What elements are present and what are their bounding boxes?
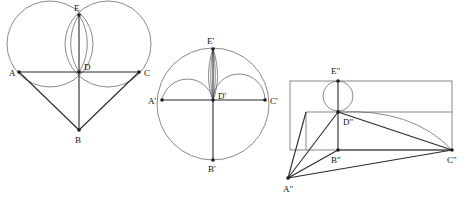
label-A-prime: A' [148, 96, 156, 106]
circle-vertex-C [263, 98, 267, 102]
label-B-dprime: B" [331, 155, 341, 165]
label-D-prime: D' [218, 91, 226, 101]
circle-vertex-E [211, 47, 215, 51]
label-D-dprime: D" [343, 117, 353, 127]
label-E-prime: E' [207, 36, 214, 46]
label-E-dprime: E" [331, 66, 340, 76]
heart-vertex-B [77, 128, 81, 132]
heart-vertex-C [137, 70, 141, 74]
rect-segment-AD [288, 112, 338, 178]
rect-vertex-D [336, 110, 340, 114]
label-C-dprime: C" [447, 155, 457, 165]
rect-vertex-C [450, 148, 454, 152]
diagram-canvas: A C D E B A' C' D' E' [0, 0, 470, 205]
heart-vertex-D [77, 70, 81, 74]
label-D: D [84, 62, 91, 72]
rect-vertex-E [336, 79, 340, 83]
label-E: E [74, 3, 80, 13]
circle-vertex-A [160, 98, 164, 102]
label-A: A [9, 68, 16, 78]
panel-heart-figure: A C D E B [7, 1, 151, 145]
heart-segment-CB [79, 72, 139, 130]
circle-vertex-D [211, 98, 215, 102]
heart-vertex-A [17, 70, 21, 74]
heart-vesica-lens-left [71, 15, 79, 72]
rect-segment-A-inner [288, 112, 306, 178]
rect-outer [290, 81, 452, 150]
panel-rectangle-figure: A" B" C" D" E" [283, 66, 457, 194]
rect-segment-DC [338, 112, 452, 150]
circle-left-arc [162, 79, 213, 100]
rect-vertex-A [286, 176, 290, 180]
circle-vertex-B [211, 158, 215, 162]
rect-vertex-B [336, 148, 340, 152]
label-B: B [75, 135, 81, 145]
heart-vertex-E [77, 13, 81, 17]
label-A-dprime: A" [283, 184, 293, 194]
label-C-prime: C' [270, 96, 278, 106]
heart-segment-AB [19, 72, 79, 130]
label-B-prime: B' [208, 164, 216, 174]
panel-circle-figure: A' C' D' E' B' [148, 36, 278, 174]
label-C: C [144, 68, 150, 78]
geometry-diagram: A C D E B A' C' D' E' [0, 0, 470, 205]
